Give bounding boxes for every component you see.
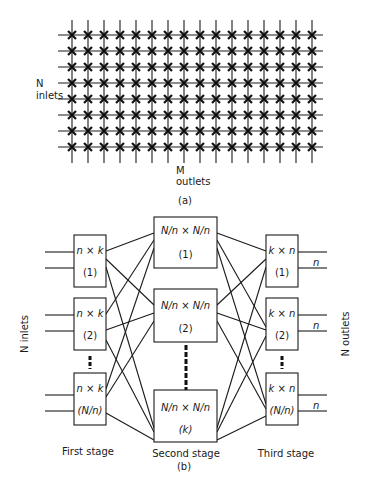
crosspoints bbox=[68, 31, 316, 151]
outlet-count-label: n bbox=[313, 400, 319, 411]
switch-size: N/n × N/n bbox=[161, 300, 210, 311]
links-second-to-third bbox=[217, 233, 266, 440]
second-stage-label: Second stage bbox=[152, 448, 220, 459]
n-inlets-label: N inlets bbox=[19, 315, 30, 353]
outlet-lines bbox=[72, 20, 312, 163]
second-stage-switch-k: N/n × N/n (k) bbox=[154, 390, 217, 442]
third-stage-switch-2: k × n (2) bbox=[266, 298, 298, 350]
switch-index: (2) bbox=[178, 323, 192, 334]
caption-b: (b) bbox=[177, 461, 191, 472]
switch-size: N/n × N/n bbox=[161, 402, 210, 413]
switch-size: n × k bbox=[77, 245, 105, 256]
switch-index: (2) bbox=[275, 330, 289, 341]
outlet-count-label: n bbox=[313, 320, 319, 331]
second-stage-switch-2: N/n × N/n (2) bbox=[154, 289, 217, 342]
first-stage-label: First stage bbox=[62, 446, 114, 457]
switch-size: n × k bbox=[77, 308, 105, 319]
outlet-count-label: n bbox=[313, 257, 319, 268]
switch-size: N/n × N/n bbox=[161, 225, 210, 236]
third-stage-label: Third stage bbox=[257, 448, 314, 459]
switch-index: (2) bbox=[83, 330, 97, 341]
third-stage-outlets bbox=[298, 252, 327, 411]
switch-index: (1) bbox=[83, 267, 97, 278]
third-stage-switch-1: k × n (1) bbox=[266, 235, 298, 287]
switch-index: (k) bbox=[179, 424, 193, 435]
switch-index: (N/n) bbox=[270, 405, 295, 416]
caption-a: (a) bbox=[178, 195, 192, 206]
second-stage-switch-1: N/n × N/n (1) bbox=[154, 217, 217, 268]
switch-size: k × n bbox=[269, 383, 296, 394]
outlets-label-word: outlets bbox=[176, 176, 210, 187]
switch-index: (1) bbox=[178, 249, 192, 260]
switch-size: k × n bbox=[269, 308, 296, 319]
switch-index: (N/n) bbox=[78, 405, 103, 416]
first-stage-switch-2: n × k (2) bbox=[74, 298, 106, 350]
switch-index: (1) bbox=[275, 267, 289, 278]
inlet-lines bbox=[58, 35, 323, 147]
third-stage-switch-n: k × n (N/n) bbox=[266, 373, 298, 425]
outlets-label-m: M bbox=[176, 165, 185, 176]
inlets-label-n: N bbox=[36, 78, 43, 89]
inlets-label-word: inlets bbox=[36, 90, 63, 101]
crossbar-figure: N inlets M outlets (a) bbox=[0, 0, 367, 493]
first-stage-inlets bbox=[45, 252, 74, 411]
switch-size: k × n bbox=[269, 245, 296, 256]
links-first-to-second bbox=[106, 233, 154, 440]
first-stage-switch-n: n × k (N/n) bbox=[74, 373, 106, 425]
n-outlets-label: N outlets bbox=[340, 311, 351, 356]
switch-size: n × k bbox=[77, 383, 105, 394]
crossbar-grid bbox=[58, 20, 323, 163]
first-stage-switch-1: n × k (1) bbox=[74, 235, 106, 287]
